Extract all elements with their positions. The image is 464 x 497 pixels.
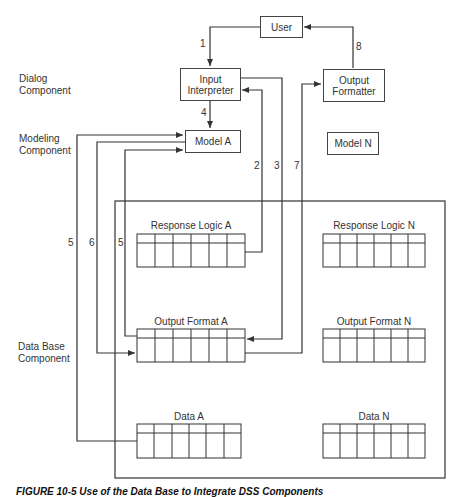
flow-number-6: 6	[89, 237, 95, 248]
flow-number-3: 3	[274, 160, 280, 171]
output-formatter-box: Output Formatter	[323, 69, 385, 102]
database-label-line2: Component	[18, 353, 70, 365]
output-formatter-label-line2: Formatter	[332, 86, 375, 97]
output-format-a-title: Output Format A	[137, 316, 245, 327]
tables	[137, 234, 425, 458]
dialog-label-line1: Dialog	[19, 73, 71, 85]
input-interpreter-label-line2: Interpreter	[187, 85, 233, 96]
modeling-label-line2: Component	[19, 145, 71, 157]
flow-number-5-inner: 5	[118, 237, 124, 248]
model-n-box: Model N	[327, 132, 379, 155]
flow-number-5-outer: 5	[68, 237, 74, 248]
data-a-title: Data A	[137, 411, 241, 422]
dialog-component-label: Dialog Component	[19, 73, 71, 97]
modeling-component-label: Modeling Component	[19, 133, 71, 157]
user-label: User	[271, 22, 292, 33]
response-logic-a-title: Response Logic A	[137, 220, 245, 231]
figure-caption: FIGURE 10-5 Use of the Data Base to Inte…	[16, 486, 323, 497]
input-interpreter-label-line1: Input	[199, 74, 221, 85]
response-logic-n-title: Response Logic N	[323, 220, 425, 231]
flow-number-1: 1	[200, 38, 206, 49]
database-label-line1: Data Base	[18, 341, 70, 353]
model-a-box: Model A	[185, 130, 241, 153]
output-formatter-label-line1: Output	[339, 75, 369, 86]
user-box: User	[260, 16, 303, 38]
data-n-title: Data N	[323, 411, 425, 422]
flow-number-8: 8	[356, 41, 362, 52]
model-a-label: Model A	[195, 136, 231, 147]
input-interpreter-box: Input Interpreter	[180, 68, 241, 101]
model-n-label: Model N	[334, 138, 371, 149]
flow-number-4: 4	[201, 107, 207, 118]
output-format-n-title: Output Format N	[323, 316, 425, 327]
database-component-label: Data Base Component	[18, 341, 70, 365]
flow-number-2: 2	[254, 160, 260, 171]
flow-number-7: 7	[294, 160, 300, 171]
modeling-label-line1: Modeling	[19, 133, 71, 145]
dialog-label-line2: Component	[19, 85, 71, 97]
